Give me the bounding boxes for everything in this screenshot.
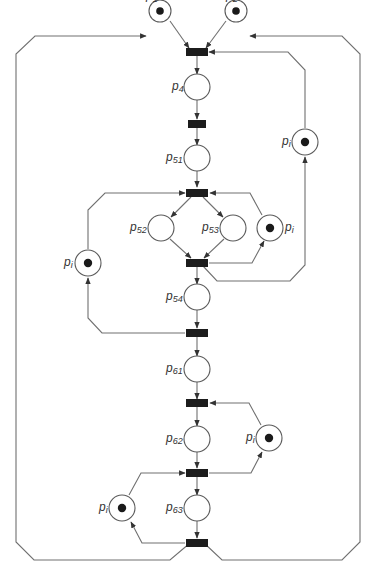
place-p4[interactable]: p4 — [171, 74, 210, 100]
token-icon — [156, 7, 164, 15]
svg-text:pi: pi — [63, 255, 74, 270]
svg-text:p53: p53 — [201, 220, 219, 235]
arc-t3-to-p52 — [171, 197, 191, 217]
arc-pi-outer-to-t1 — [209, 52, 305, 128]
token-icon — [118, 504, 126, 512]
svg-text:pi: pi — [98, 500, 109, 515]
arc-t8-to-p1 — [16, 36, 190, 560]
petri-net-diagram: p1 p2 p4 p51 p52 p53 p54 — [0, 0, 373, 575]
arc-t8-to-p2 — [204, 36, 360, 560]
place-pi-inner-right[interactable]: pi — [257, 215, 295, 241]
token-icon — [265, 434, 273, 442]
token-icon — [301, 138, 309, 146]
token-icon — [84, 259, 92, 267]
place-p62[interactable]: p62 — [165, 426, 210, 452]
svg-text:pi: pi — [281, 134, 292, 149]
svg-text:p52: p52 — [129, 220, 147, 235]
arc-p53-to-t4 — [204, 239, 224, 258]
place-pi-left-upper[interactable]: pi — [63, 250, 101, 276]
arc-pi-left-lower-to-t7 — [129, 473, 185, 495]
place-pi-outer-right[interactable]: pi — [281, 129, 318, 155]
arc-pi-lower-to-t6 — [210, 403, 261, 425]
svg-text:p4: p4 — [171, 79, 184, 94]
transition-t6[interactable] — [186, 399, 208, 407]
svg-text:p51: p51 — [165, 150, 183, 165]
arc-t8-to-pi-left-lower — [131, 522, 185, 543]
arc-p1-to-t1 — [170, 21, 189, 48]
place-p53[interactable]: p53 — [201, 215, 246, 241]
arc-t4-to-pi-outer — [203, 157, 305, 281]
place-p2[interactable]: p2 — [225, 0, 247, 22]
svg-text:pi: pi — [284, 220, 295, 235]
arc-t3-to-p53 — [203, 197, 223, 217]
place-p54[interactable]: p54 — [165, 284, 210, 310]
place-p61[interactable]: p61 — [165, 356, 210, 382]
transition-t1[interactable] — [186, 48, 208, 56]
place-p51[interactable]: p51 — [165, 145, 210, 171]
svg-text:p54: p54 — [165, 289, 183, 304]
arc-p2-to-t1 — [206, 21, 226, 48]
transition-t2[interactable] — [188, 120, 206, 128]
token-icon — [266, 224, 274, 232]
arc-t4-to-pi-inner — [209, 241, 264, 263]
transition-t7[interactable] — [186, 469, 208, 477]
place-p1[interactable]: p1 — [145, 0, 171, 22]
svg-text:p61: p61 — [165, 361, 183, 376]
transition-t8[interactable] — [186, 539, 208, 547]
token-icon — [232, 7, 240, 15]
place-pi-left-lower[interactable]: pi — [98, 495, 135, 521]
place-p63[interactable]: p63 — [165, 495, 210, 521]
transition-t3[interactable] — [186, 189, 208, 197]
place-p52[interactable]: p52 — [129, 215, 174, 241]
transition-t4[interactable] — [186, 259, 208, 267]
arc-t5-to-pi-left — [88, 278, 185, 333]
svg-text:p62: p62 — [165, 431, 183, 446]
place-pi-right-lower[interactable]: pi — [245, 425, 282, 451]
svg-text:pi: pi — [245, 430, 256, 445]
arc-t7-to-pi-lower — [209, 452, 262, 473]
transition-t5[interactable] — [186, 329, 208, 337]
arc-p52-to-t4 — [170, 239, 191, 258]
svg-text:p63: p63 — [165, 500, 183, 515]
